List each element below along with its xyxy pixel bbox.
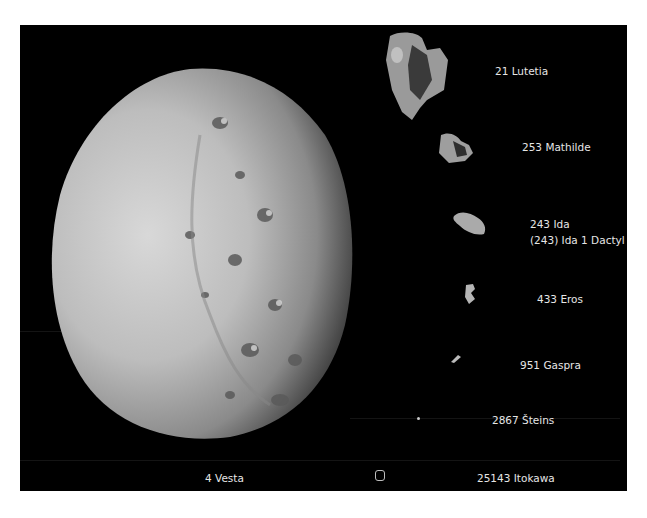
eros-asteroid-image [463, 283, 477, 305]
scan-artifact [20, 460, 620, 461]
itokawa-marker-circle [375, 470, 385, 481]
lutetia-asteroid-image [382, 30, 452, 122]
vesta-label: 4 Vesta [205, 472, 244, 485]
gaspra-label: 951 Gaspra [520, 359, 581, 372]
asteroid-comparison-image: 21 Lutetia 253 Mathilde 243 Ida (243) Id… [20, 25, 627, 491]
vesta-asteroid-image [40, 65, 360, 445]
steins-asteroid-image [417, 417, 420, 420]
steins-label: 2867 Šteins [492, 414, 554, 427]
gaspra-asteroid-image [450, 354, 462, 364]
lutetia-label: 21 Lutetia [495, 65, 548, 78]
ida-asteroid-image [452, 210, 488, 236]
mathilde-asteroid-image [435, 131, 475, 165]
dactyl-label: (243) Ida 1 Dactyl [530, 234, 625, 247]
itokawa-label: 25143 Itokawa [477, 472, 555, 485]
ida-label: 243 Ida [530, 218, 570, 231]
eros-label: 433 Eros [537, 293, 583, 306]
mathilde-label: 253 Mathilde [522, 141, 591, 154]
scan-artifact [350, 418, 620, 419]
